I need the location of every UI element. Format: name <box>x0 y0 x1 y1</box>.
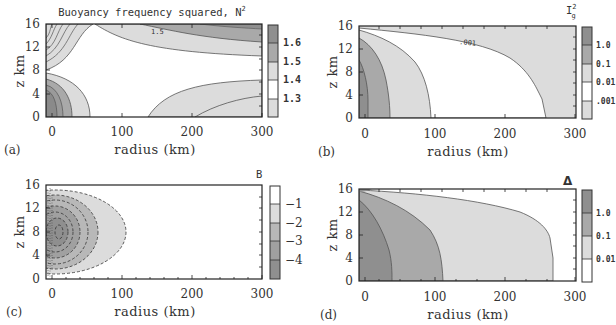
ytick: 4 <box>32 87 40 101</box>
colorbar-label: −3 <box>285 234 303 248</box>
panel-a-inline-label: 1.5 <box>151 28 164 36</box>
ytick: 16 <box>338 182 353 196</box>
ytick: 16 <box>25 178 40 192</box>
colorbar-label: −4 <box>285 253 303 267</box>
colorbar-label: 0.1 <box>596 60 611 69</box>
colorbar-label: −2 <box>285 216 303 230</box>
colorbar-label: 0.1 <box>596 232 611 241</box>
colorbar-label: 1.0 <box>596 41 611 50</box>
panel-c: B 16 12 8 4 0 0 <box>0 168 303 319</box>
xtick: 300 <box>251 125 274 139</box>
colorbar-label: −1 <box>285 197 303 211</box>
figure: Buoyancy frequency squared, N2 1.5 <box>0 0 616 325</box>
ytick: 4 <box>345 88 353 102</box>
ytick: 8 <box>32 63 40 77</box>
colorbar-label: 1.5 <box>283 56 301 67</box>
panel-d-contours <box>359 189 576 281</box>
ytick: 4 <box>32 248 40 262</box>
panel-c-title: B <box>256 168 262 180</box>
y-axis-label: z km <box>12 54 27 87</box>
ytick: 12 <box>25 201 40 215</box>
xtick: 0 <box>48 287 56 301</box>
ytick: 12 <box>338 205 353 219</box>
xtick: 100 <box>111 125 134 139</box>
ytick: 8 <box>345 228 353 242</box>
panel-c-label: (c) <box>6 305 22 319</box>
colorbar-label: 1.3 <box>283 93 301 104</box>
xtick: 0 <box>361 290 369 304</box>
xtick: 300 <box>251 287 274 301</box>
xtick: 200 <box>494 290 517 304</box>
colorbar-label: 0.01 <box>596 78 615 87</box>
ytick: 4 <box>345 251 353 265</box>
xtick: 200 <box>181 125 204 139</box>
colorbar-label: 1.0 <box>596 209 611 218</box>
xtick: 100 <box>424 290 447 304</box>
ytick: 12 <box>338 42 353 56</box>
y-axis-label: z km <box>325 55 340 88</box>
xtick: 300 <box>564 290 587 304</box>
ytick: 8 <box>345 65 353 79</box>
xtick: 200 <box>494 127 517 141</box>
panel-b-contours: .001 <box>359 26 576 118</box>
panel-a-title: Buoyancy frequency squared, N2 <box>58 5 246 18</box>
panel-d-label: (d) <box>320 308 337 322</box>
panel-b: I2g .001 16 12 8 4 0 0 100 200 300 radiu… <box>318 3 615 159</box>
ytick: 8 <box>32 225 40 239</box>
panel-a-colorbar: 1.6 1.5 1.4 1.3 <box>268 25 301 117</box>
y-axis-label: z km <box>12 215 27 248</box>
ytick: 12 <box>25 40 40 54</box>
ytick: 16 <box>338 19 353 33</box>
x-axis-label: radius (km) <box>114 304 195 319</box>
ytick: 0 <box>32 110 40 124</box>
colorbar-label: 0.01 <box>596 255 615 264</box>
xtick: 0 <box>361 127 369 141</box>
ytick: 16 <box>25 17 40 31</box>
x-axis-label: radius (km) <box>427 307 508 322</box>
xtick: 0 <box>48 125 56 139</box>
panel-d: Δ 16 12 8 4 0 0 100 200 300 radius (km) … <box>320 174 615 322</box>
panel-b-label: (b) <box>318 145 335 159</box>
x-axis-label: radius (km) <box>427 144 508 159</box>
ytick: 0 <box>345 111 353 125</box>
ytick: 0 <box>345 274 353 288</box>
panel-b-colorbar: 1.0 0.1 0.01 .001 <box>582 27 615 119</box>
panel-d-title: Δ <box>563 174 573 188</box>
xtick: 100 <box>111 287 134 301</box>
colorbar-label: 1.6 <box>283 37 301 48</box>
y-axis-label: z km <box>325 218 340 251</box>
panel-a-contours: 1.5 <box>46 24 262 117</box>
x-axis-label: radius (km) <box>114 142 195 157</box>
panel-d-colorbar: 1.0 0.1 0.01 <box>582 190 615 282</box>
panel-a: Buoyancy frequency squared, N2 1.5 <box>4 5 301 157</box>
panel-b-title: I2g <box>566 3 577 20</box>
xtick: 200 <box>181 287 204 301</box>
xtick: 100 <box>424 127 447 141</box>
colorbar-label: 1.4 <box>283 74 301 85</box>
colorbar-label: .001 <box>596 97 615 106</box>
panel-c-colorbar: −1 −2 −3 −4 <box>270 186 303 279</box>
ytick: 0 <box>32 272 40 286</box>
xtick: 300 <box>564 127 587 141</box>
panel-a-label: (a) <box>4 143 21 157</box>
